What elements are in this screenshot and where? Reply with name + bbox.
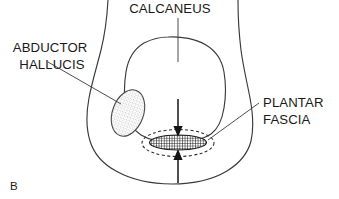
label-plantar-fascia: PLANTAR FASCIA <box>263 95 327 127</box>
figure-canvas: CALCANEUS ABDUCTOR HALLUCIS PLANTAR FASC… <box>0 0 339 199</box>
upward-compression-arrow <box>173 149 182 183</box>
plantar-fascia-band <box>150 135 207 150</box>
panel-letter: B <box>10 180 18 192</box>
label-abductor-hallucis: ABDUCTOR HALLUCIS <box>13 40 91 72</box>
heel-anatomy-figure: CALCANEUS ABDUCTOR HALLUCIS PLANTAR FASC… <box>0 0 339 199</box>
label-calcaneus: CALCANEUS <box>129 1 211 16</box>
